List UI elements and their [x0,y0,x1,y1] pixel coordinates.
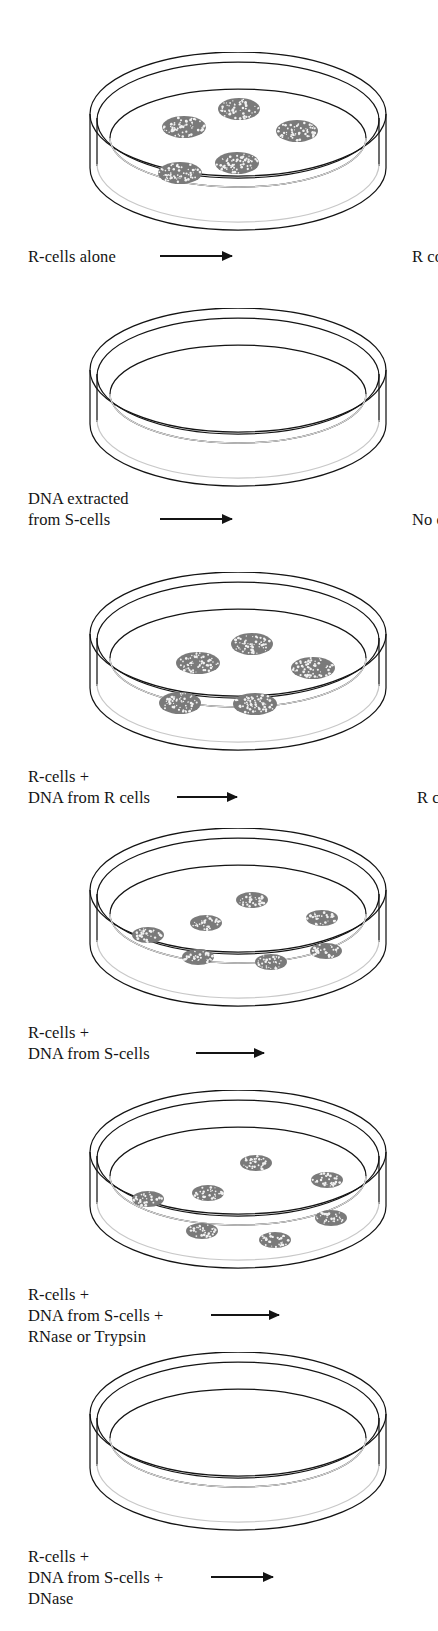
caption-condition-text: R-cells + [28,766,89,787]
colony [190,915,222,931]
colony [315,1210,347,1226]
petri-dish-3 [0,572,438,772]
colony-group [132,892,342,970]
dish-illustration [0,572,438,772]
colony [259,1232,291,1248]
panel-caption: R-cells aloneR colonies only [0,246,438,267]
caption-result-text: No colonies [412,509,438,530]
arrow-icon: R colonies only [160,255,232,257]
transformation-experiment-figure: R-cells aloneR colonies onlyDNA extracte… [0,0,438,1631]
caption-row: DNA from S-cells +No S colonies [0,1567,438,1588]
caption-condition-text: R-cells + [28,1284,89,1305]
colony [186,1223,218,1239]
petri-dish-1 [0,52,438,252]
dish-agar-surface [110,609,366,707]
colony [236,892,268,908]
colony [159,692,201,714]
colony [310,943,342,959]
dish-base-outer [90,424,386,486]
dish-rim-outer [90,308,386,432]
arrow-icon: No colonies [160,518,232,520]
dish-agar-front-edge [110,394,366,443]
dish-base-outer [90,944,386,1006]
caption-condition-text: R-cells + [28,1022,89,1043]
dish-base-inner [97,420,379,478]
colony [311,1172,343,1188]
arrow-icon: S colonies [211,1314,279,1316]
dish-base-inner [97,684,379,742]
colony [132,927,164,943]
colony-group [132,1155,347,1248]
petri-dish-6 [0,1352,438,1552]
colony [255,954,287,970]
caption-condition-text: from S-cells [28,509,110,530]
colony [132,1191,164,1207]
colony [192,1185,224,1201]
caption-condition-text: RNase or Trypsin [28,1326,146,1347]
caption-result-text: R colonies only [412,246,438,267]
petri-dish-2 [0,308,438,508]
caption-row: DNA extracted [0,488,438,509]
caption-row: R-cells + [0,1284,438,1305]
colony [215,152,259,174]
caption-row: RNase or Trypsin [0,1326,438,1347]
caption-condition-text: R-cells alone [28,246,116,267]
caption-row: DNA from R cellsR colonies only [0,787,438,808]
caption-condition-text: DNA from S-cells [28,1043,150,1064]
dish-base-inner [97,1464,379,1522]
caption-condition-text: DNA from S-cells + [28,1567,163,1588]
petri-dish-4 [0,828,438,1028]
dish-base-outer [90,168,386,230]
caption-condition-text: DNA from S-cells + [28,1305,163,1326]
petri-dish-5 [0,1090,438,1290]
colony [276,120,318,142]
dish-illustration [0,828,438,1028]
panel-caption: R-cells +DNA from R cellsR colonies only [0,766,438,808]
dish-illustration [0,52,438,252]
caption-row: DNA from S-cellsS colonies [0,1043,438,1064]
colony [240,1155,272,1171]
caption-row: DNase [0,1588,438,1609]
colony [182,949,214,965]
colony [158,162,202,184]
caption-row: R-cells aloneR colonies only [0,246,438,267]
dish-rim-outer [90,572,386,696]
caption-row: R-cells + [0,766,438,787]
dish-illustration [0,1352,438,1552]
arrow-icon: R colonies only [177,796,237,798]
arrow-icon: No S colonies [211,1576,273,1578]
dish-illustration [0,1090,438,1290]
dish-agar-surface [110,345,366,443]
caption-condition-text: DNA extracted [28,488,129,509]
panel-caption: R-cells +DNA from S-cells +No S colonies… [0,1546,438,1609]
dish-rim-outer [90,1352,386,1476]
caption-row: from S-cellsNo colonies [0,509,438,530]
colony [176,652,220,674]
caption-row: DNA from S-cells +S colonies [0,1305,438,1326]
caption-row: R-cells + [0,1546,438,1567]
colony [233,693,277,715]
dish-agar-front-edge [110,1438,366,1487]
dish-agar-surface [110,1389,366,1487]
colony [231,633,273,655]
panel-caption: R-cells +DNA from S-cellsS colonies [0,1022,438,1064]
caption-condition-text: R-cells + [28,1546,89,1567]
panel-caption: R-cells +DNA from S-cells +S coloniesRNa… [0,1284,438,1347]
arrow-icon: S colonies [196,1052,264,1054]
colony [306,910,338,926]
dish-illustration [0,308,438,508]
panel-caption: DNA extractedfrom S-cellsNo colonies [0,488,438,530]
dish-base-outer [90,1468,386,1530]
caption-result-text: R colonies only [417,787,438,808]
colony [291,657,335,679]
caption-row: R-cells + [0,1022,438,1043]
colony [162,116,206,138]
caption-condition-text: DNase [28,1588,73,1609]
colony-group [159,633,335,715]
caption-condition-text: DNA from R cells [28,787,150,808]
colony [218,98,260,120]
